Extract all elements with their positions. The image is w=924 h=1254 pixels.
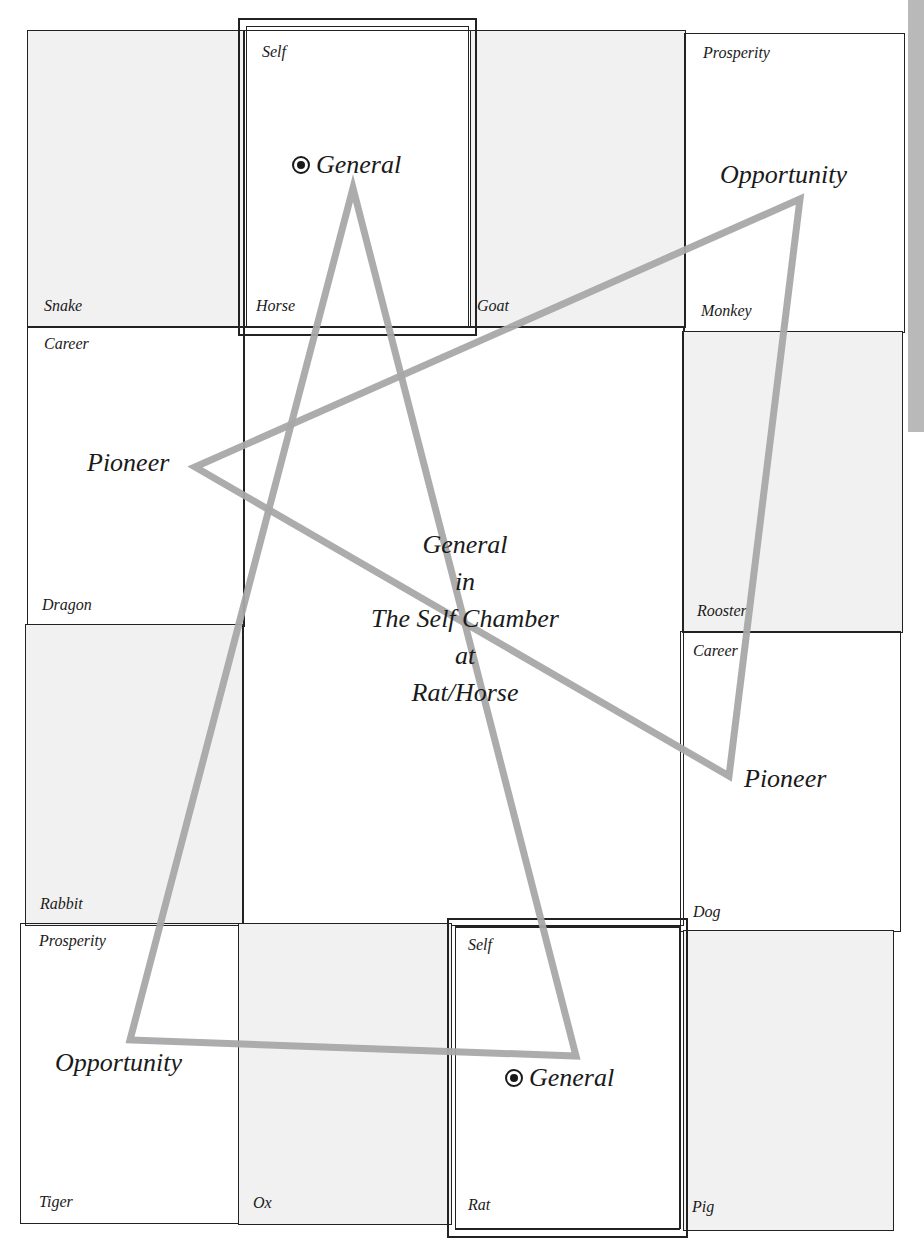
animal-label: Goat — [477, 297, 509, 315]
caption-line: The Self Chamber — [330, 600, 600, 637]
star-general-bottom: General — [505, 1063, 614, 1093]
star-pioneer-right: Pioneer — [744, 764, 826, 794]
animal-label: Rat — [468, 1196, 490, 1214]
animal-label: Ox — [253, 1194, 272, 1212]
cell-snake: Snake — [27, 30, 245, 328]
target-icon — [292, 156, 310, 174]
star-pioneer-left: Pioneer — [87, 448, 169, 478]
caption-line: at — [330, 637, 600, 674]
cell-rooster: Rooster — [682, 331, 903, 633]
star-opportunity-top-right: Opportunity — [720, 160, 847, 190]
chamber-label: Self — [262, 43, 286, 61]
animal-label: Snake — [44, 297, 82, 315]
animal-label: Rabbit — [40, 895, 83, 913]
chamber-label: Prosperity — [39, 932, 106, 950]
cell-ox: Ox — [238, 923, 452, 1225]
animal-label: Monkey — [701, 302, 752, 320]
caption-line: General — [330, 526, 600, 563]
chamber-label: Career — [693, 642, 738, 660]
animal-label: Tiger — [39, 1193, 73, 1211]
flying-star-chart: Snake Self Horse Goat Prosperity Monkey … — [0, 0, 924, 1254]
cell-goat: Goat — [470, 30, 686, 328]
chamber-label: Self — [468, 936, 492, 954]
chamber-label: Prosperity — [703, 44, 770, 62]
animal-label: Rooster — [697, 602, 747, 620]
chamber-label: Career — [44, 335, 89, 353]
animal-label: Dog — [693, 903, 721, 921]
star-opportunity-bottom-left: Opportunity — [55, 1048, 182, 1078]
animal-label: Dragon — [42, 596, 92, 614]
target-icon — [505, 1069, 523, 1087]
caption-line: in — [330, 563, 600, 600]
animal-label: Pig — [692, 1198, 714, 1216]
animal-label: Horse — [256, 297, 295, 315]
page-edge-strip — [908, 0, 924, 432]
star-general-top: General — [292, 150, 401, 180]
cell-pig: Pig — [683, 930, 894, 1231]
center-caption: General in The Self Chamber at Rat/Horse — [330, 526, 600, 711]
cell-rabbit: Rabbit — [25, 624, 243, 926]
caption-line: Rat/Horse — [330, 674, 600, 711]
